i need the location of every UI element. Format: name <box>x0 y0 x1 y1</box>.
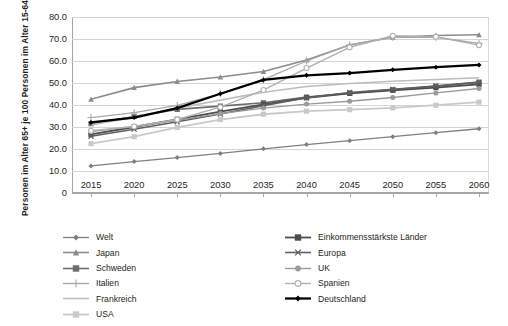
series-welt <box>89 126 482 168</box>
data-point <box>433 103 438 108</box>
legend-item-usa[interactable]: USA <box>62 306 137 321</box>
legend-label: Spanien <box>318 279 350 288</box>
x-tick <box>91 193 92 197</box>
legend-column-right: Einkommensstärkste LänderEuropaUKSpanien… <box>284 230 427 306</box>
x-tick-label: 2040 <box>296 180 317 190</box>
legend-label: Deutschland <box>318 295 366 304</box>
x-tick-label: 2015 <box>81 180 102 190</box>
data-point <box>347 138 352 143</box>
x-tick <box>220 193 221 197</box>
legend-label: Japan <box>96 249 119 258</box>
legend-swatch-icon <box>284 293 312 304</box>
legend-swatch-icon <box>62 232 90 243</box>
x-tick <box>436 193 437 197</box>
legend-item-welt[interactable]: Welt <box>62 230 137 245</box>
data-point <box>295 265 301 271</box>
legend-label: Italien <box>96 279 119 288</box>
data-point <box>261 146 266 151</box>
data-point <box>132 124 137 129</box>
y-tick-label: 80.0 <box>49 12 67 22</box>
legend-item-uk[interactable]: UK <box>284 261 427 276</box>
legend-item-einkommensst-rkste-l-nder[interactable]: Einkommensstärkste Länder <box>284 230 427 245</box>
data-point <box>476 100 481 105</box>
data-point <box>218 151 223 156</box>
data-point <box>73 235 79 241</box>
data-point <box>261 112 266 117</box>
x-tick-label: 2020 <box>124 180 145 190</box>
legend-label: Europa <box>318 249 346 258</box>
data-point <box>218 111 223 116</box>
legend-item-schweden[interactable]: Schweden <box>62 261 137 276</box>
data-point <box>477 43 482 48</box>
data-point <box>477 86 482 91</box>
x-tick <box>307 193 308 197</box>
data-point <box>73 311 79 317</box>
x-tick-label: 2025 <box>167 180 188 190</box>
legend-item-spanien[interactable]: Spanien <box>284 276 427 291</box>
data-point <box>347 45 352 50</box>
data-point <box>295 234 301 240</box>
data-point <box>347 107 352 112</box>
x-tick <box>134 193 135 197</box>
series-layer <box>72 17 489 193</box>
x-tick-label: 2050 <box>382 180 403 190</box>
data-point <box>89 128 94 133</box>
legend-swatch-icon <box>284 278 312 289</box>
y-tick-label: 0 <box>62 188 67 198</box>
data-point <box>73 265 79 271</box>
legend-swatch-icon <box>62 309 90 320</box>
x-tick-label: 2045 <box>339 180 360 190</box>
series-line <box>91 36 479 131</box>
legend-label: USA <box>96 310 114 319</box>
series-spanien <box>89 33 482 133</box>
legend-label: Einkommensstärkste Länder <box>318 233 427 242</box>
plot-area: 010.020.030.040.050.060.070.080.0 <box>72 17 489 193</box>
x-tick-label: 2060 <box>469 180 490 190</box>
data-point <box>218 117 223 122</box>
data-point <box>304 102 309 107</box>
x-tick-label: 2035 <box>253 180 274 190</box>
data-point <box>261 88 266 93</box>
legend-column-left: WeltJapanSchwedenItalienFrankreichUSA <box>62 230 137 322</box>
data-point <box>347 71 352 76</box>
data-point <box>390 134 395 139</box>
x-tick <box>393 193 394 197</box>
legend-swatch-icon <box>62 247 90 258</box>
legend-item-japan[interactable]: Japan <box>62 245 137 260</box>
y-tick-label: 10.0 <box>49 166 67 176</box>
x-tick <box>263 193 264 197</box>
legend-label: UK <box>318 264 330 273</box>
legend-swatch-icon <box>62 263 90 274</box>
legend-swatch-icon <box>284 232 312 243</box>
x-tick <box>177 193 178 197</box>
data-point <box>132 134 137 139</box>
data-point <box>175 117 180 122</box>
series-line <box>91 65 479 122</box>
data-point <box>433 90 438 95</box>
data-point <box>175 155 180 160</box>
y-tick-label: 20.0 <box>49 144 67 154</box>
y-tick-label: 40.0 <box>49 100 67 110</box>
legend-item-europa[interactable]: Europa <box>284 245 427 260</box>
legend-item-italien[interactable]: Italien <box>62 276 137 291</box>
legend-label: Welt <box>96 233 113 242</box>
data-point <box>295 296 301 302</box>
y-tick-label: 70.0 <box>49 34 67 44</box>
data-point <box>304 66 309 71</box>
data-point <box>89 163 94 168</box>
data-point <box>175 125 180 130</box>
x-tick <box>479 193 480 197</box>
data-point <box>304 109 309 114</box>
data-point <box>132 159 137 164</box>
y-tick-label: 30.0 <box>49 122 67 132</box>
legend-item-deutschland[interactable]: Deutschland <box>284 291 427 306</box>
legend-swatch-icon <box>284 247 312 258</box>
legend-label: Frankreich <box>96 295 137 304</box>
y-tick-label: 50.0 <box>49 78 67 88</box>
x-tick-label: 2030 <box>210 180 231 190</box>
data-point <box>390 95 395 100</box>
data-point <box>433 130 438 135</box>
series-line <box>91 102 479 144</box>
legend-item-frankreich[interactable]: Frankreich <box>62 291 137 306</box>
data-point <box>433 65 438 70</box>
